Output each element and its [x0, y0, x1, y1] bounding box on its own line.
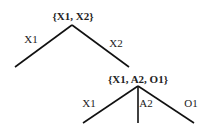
child-edge-label-x1: X1	[82, 97, 95, 109]
child-edge-label-a2: A2	[139, 97, 152, 109]
root-edge-label-x2: X2	[109, 37, 122, 49]
tree-edges	[0, 0, 205, 130]
root-node-label: {X1, X2}	[52, 10, 93, 22]
root-edge-label-x1: X1	[24, 33, 37, 45]
child-edge-label-o1: O1	[184, 97, 197, 109]
child-node-label: {X1, A2, O1}	[108, 73, 168, 85]
edge-root-x1	[15, 25, 72, 67]
